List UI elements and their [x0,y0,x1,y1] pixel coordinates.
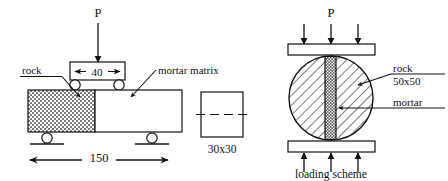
beam-rock-label: rock [22,64,42,76]
bottom-platen [288,141,375,152]
top-platen [288,44,375,55]
support-roller-left [42,133,52,143]
beam-diagram: P 40 rock mor [20,6,219,165]
disc-diagram: P rock 50x50 mortar [288,6,445,181]
support-roller-right [147,133,157,143]
disc-caption: loading scheme [295,168,367,181]
figure-canvas: P 40 rock mor [0,0,448,181]
disc-mortar-strip [325,57,336,140]
loading-block-dimension-label: 40 [92,66,104,78]
top-roller-left [70,80,80,90]
beam-mortar-region [95,90,182,132]
disc-rock-label: rock [393,62,413,74]
beam-rock-region [28,90,95,132]
cross-section-diagram: 30x30 [196,92,248,155]
technical-figure: P 40 rock mor [0,0,448,181]
cross-section-label: 30x30 [208,143,237,155]
disc-mortar-label: mortar [393,96,423,108]
cross-section-square [201,92,243,137]
top-roller-right [114,80,124,90]
beam-mortar-label: mortar matrix [158,64,219,76]
span-dimension-label: 150 [90,151,109,165]
disc-load-label: P [328,6,335,20]
disc-rock-size-label: 50x50 [393,75,421,87]
beam-load-label: P [95,6,102,20]
